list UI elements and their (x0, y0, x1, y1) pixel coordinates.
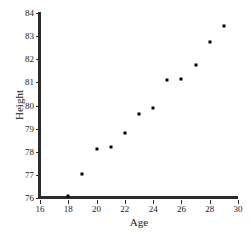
data-point (166, 79, 169, 82)
data-point (208, 40, 211, 43)
x-tick-label: 30 (234, 205, 243, 214)
x-tick-label: 26 (177, 205, 186, 214)
y-tick-label: 81 (25, 78, 34, 87)
y-tick-label: 78 (25, 147, 34, 156)
x-tick-label: 22 (120, 205, 129, 214)
data-point (138, 112, 141, 115)
x-tick-mark (210, 200, 211, 204)
x-tick-label: 24 (149, 205, 158, 214)
data-point (95, 148, 98, 151)
y-tick-label: 76 (25, 194, 34, 203)
y-tick-label: 83 (25, 32, 34, 41)
data-point (180, 77, 183, 80)
x-tick-mark (181, 200, 182, 204)
y-tick-label: 80 (25, 101, 34, 110)
data-point (222, 24, 225, 27)
x-tick-mark (68, 200, 69, 204)
data-point (81, 172, 84, 175)
data-point (123, 132, 126, 135)
x-tick-mark (238, 200, 239, 204)
x-tick-mark (125, 200, 126, 204)
y-axis-title: Height (13, 90, 25, 120)
plot-area (40, 13, 238, 198)
data-point (109, 146, 112, 149)
x-tick-label: 18 (64, 205, 73, 214)
x-tick-mark (40, 200, 41, 204)
y-tick-label: 82 (25, 55, 34, 64)
x-tick-label: 28 (205, 205, 214, 214)
data-point (152, 106, 155, 109)
scatter-chart-figure: 767778798081828384 1618202224262830 Heig… (0, 0, 250, 238)
x-tick-mark (153, 200, 154, 204)
y-tick-label: 84 (25, 9, 34, 18)
y-tick-label: 79 (25, 124, 34, 133)
data-point (67, 194, 70, 197)
data-point (194, 64, 197, 67)
x-tick-mark (97, 200, 98, 204)
y-tick-label: 77 (25, 170, 34, 179)
x-tick-label: 20 (92, 205, 101, 214)
x-tick-label: 16 (36, 205, 45, 214)
x-axis-title: Age (40, 216, 238, 228)
